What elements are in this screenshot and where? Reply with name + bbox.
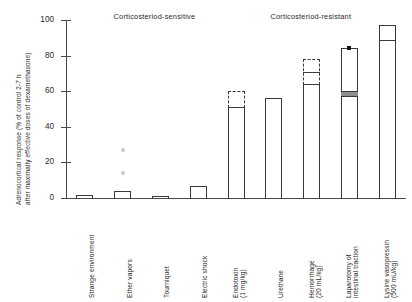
x-category-label-line1: Electric shock: [201, 256, 208, 298]
x-category-label-1: Ether vapors: [126, 259, 133, 298]
x-category-label-0: Strange environment: [88, 235, 95, 299]
bar-upper-range-cap: [228, 91, 245, 108]
x-category-label-8: Lysine vasopressin(500 mU/kg): [383, 240, 397, 298]
adrenocortical-response-bar-chart: Adrenocortical response (% of control 2-…: [0, 0, 412, 302]
bar: [190, 186, 207, 199]
bar: [341, 48, 358, 199]
x-category-label-line1: Endotoxin: [232, 268, 239, 298]
bar: [114, 191, 131, 199]
x-category-label-4: Endotoxin(1 mg/kg): [232, 268, 246, 298]
scatter-point: [121, 171, 125, 175]
x-category-label-line1: Urethane: [277, 270, 284, 298]
bar: [228, 107, 245, 199]
x-category-label-line2: (500 mU/kg): [390, 240, 397, 298]
x-category-label-line2: (1 mg/kg): [239, 268, 246, 298]
bar-divider: [303, 72, 320, 73]
bar-divider: [379, 40, 396, 41]
x-category-label-3: Electric shock: [201, 256, 208, 298]
bar: [152, 196, 169, 199]
bar: [379, 25, 396, 199]
scatter-point: [121, 148, 125, 152]
x-category-label-6: Hemorrhage(20 mL/kg): [308, 260, 322, 298]
x-category-label-line2: (20 mL/kg): [315, 260, 322, 298]
x-category-label-line2: intestinal traction: [352, 246, 359, 298]
x-category-label-line1: Strange environment: [88, 235, 95, 299]
bar-marker-square: [347, 46, 351, 50]
x-category-label-2: Tourniquet: [163, 266, 170, 298]
x-category-label-line1: Hemorrhage: [308, 260, 315, 298]
x-category-label-line1: Tourniquet: [163, 266, 170, 298]
bar: [76, 195, 93, 199]
x-category-label-line1: Ether vapors: [126, 259, 133, 298]
bar: [265, 98, 282, 199]
x-category-label-5: Urethane: [277, 270, 284, 298]
x-category-label-7: Laparotomy ofintestinal traction: [345, 246, 359, 298]
bar: [303, 84, 320, 199]
bar-band: [341, 91, 358, 96]
